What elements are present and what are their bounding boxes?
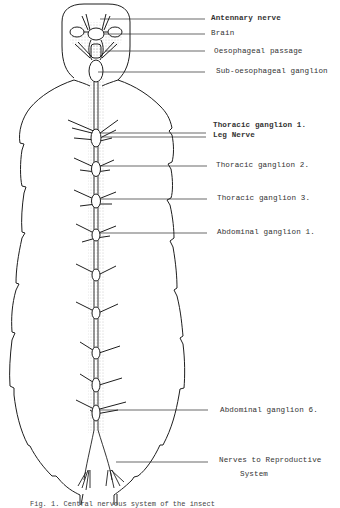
label-sub-oesophageal-ganglion: Sub-oesophageal ganglion: [216, 67, 328, 76]
label-thoracic-ganglion-1: Thoracic ganglion 1.: [213, 121, 306, 130]
label-thoracic-ganglion-3: Thoracic ganglion 3.: [217, 194, 310, 203]
label-antennary-nerve: Antennary nerve: [211, 14, 281, 23]
label-oesophageal-passage: Oesophageal passage: [214, 47, 302, 56]
label-abdominal-ganglion-1: Abdominal ganglion 1.: [217, 228, 315, 237]
label-nerves-to-reproductive-system: Nerves to Reproductive: [219, 456, 321, 465]
nerve-cord-stipple: [70, 22, 122, 433]
label-brain: Brain: [211, 29, 234, 38]
label-abdominal-ganglion-6: Abdominal ganglion 6.: [220, 406, 318, 415]
label-nerves-to-reproductive-system-line2: System: [240, 470, 268, 479]
leader-lines: [98, 19, 208, 462]
label-leg-nerve: Leg Nerve: [213, 131, 255, 140]
figure-caption: Fig. 1. Central nervous system of the in…: [30, 500, 215, 508]
label-thoracic-ganglion-2: Thoracic ganglion 2.: [216, 161, 309, 170]
